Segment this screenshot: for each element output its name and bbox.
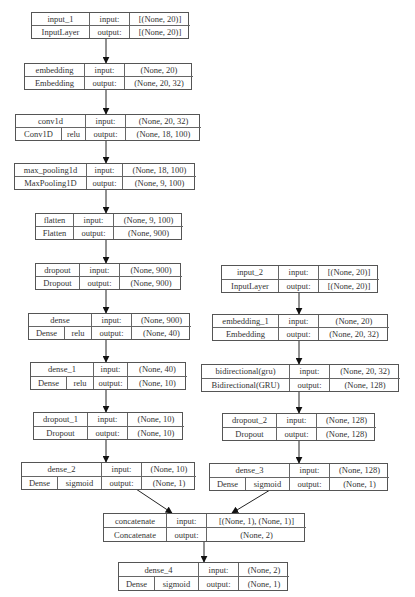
node-dense: dense input: (None, 900) Dense relu outp…	[28, 313, 190, 340]
node-name: input_1	[32, 13, 90, 26]
node-type: Dropout	[223, 428, 277, 441]
output-label: output:	[279, 280, 319, 293]
node-dense_3: dense_3 input: (None, 128) Dense sigmoid…	[209, 463, 388, 491]
output-label: output:	[199, 577, 239, 590]
output-shape: (None, 40)	[132, 327, 191, 339]
node-concatenate: concatenate input: [(None, 1), (None, 1)…	[103, 513, 305, 542]
output-label: output:	[290, 379, 330, 392]
input-shape: (None, 20, 32)	[126, 115, 201, 128]
output-label: output:	[94, 377, 128, 390]
node-type: Dropout	[34, 427, 88, 440]
input-label: input:	[80, 264, 120, 277]
input-label: input:	[88, 413, 128, 427]
output-shape: (None, 900)	[114, 227, 183, 239]
node-conv1d: conv1d input: (None, 20, 32) Conv1D relu…	[15, 114, 200, 141]
output-label: output:	[90, 26, 130, 38]
input-shape: (None, 128)	[317, 414, 376, 428]
input-shape: (None, 900)	[120, 264, 182, 277]
input-label: input:	[94, 363, 128, 377]
node-type: Flatten	[36, 227, 74, 239]
input-shape: (None, 18, 100)	[123, 164, 196, 177]
node-name: dropout_1	[34, 413, 88, 427]
edge-dense_2-concatenate	[136, 489, 172, 513]
node-type: Dense	[31, 377, 67, 390]
input-shape: (None, 40)	[128, 363, 187, 377]
activation: sigmoid	[246, 478, 290, 491]
node-input_1: input_1 input: [(None, 20)] InputLayer o…	[31, 12, 189, 39]
node-name: bidirectional(gru)	[202, 365, 290, 379]
output-label: output:	[167, 528, 207, 541]
node-name: dropout	[36, 264, 80, 277]
node-name: dense_4	[119, 563, 199, 577]
node-type: Conv1D	[16, 128, 62, 140]
input-label: input:	[199, 563, 239, 577]
input-shape: (None, 2)	[239, 563, 289, 577]
activation: sigmoid	[58, 477, 102, 490]
output-label: output:	[86, 128, 126, 140]
node-dense_4: dense_4 input: (None, 2) Dense sigmoid o…	[118, 562, 288, 591]
activation: relu	[62, 128, 86, 140]
node-type: Concatenate	[104, 528, 167, 541]
node-name: dense_3	[210, 464, 290, 478]
node-name: dropout_2	[223, 414, 277, 428]
output-label: output:	[88, 427, 128, 440]
output-label: output:	[102, 477, 142, 490]
output-label: output:	[290, 478, 330, 491]
node-name: flatten	[36, 214, 74, 227]
output-shape: (None, 20, 32)	[319, 328, 389, 340]
output-label: output:	[92, 327, 132, 339]
activation: sigmoid	[155, 577, 199, 590]
input-label: input:	[167, 514, 207, 528]
output-shape: [(None, 20)]	[319, 280, 379, 293]
output-shape: (None, 2)	[207, 528, 306, 541]
output-label: output:	[80, 277, 120, 289]
node-type: Dense	[210, 478, 246, 491]
input-label: input:	[290, 464, 330, 478]
input-shape: (None, 20)	[319, 315, 389, 328]
output-label: output:	[74, 227, 114, 239]
input-label: input:	[85, 64, 125, 77]
input-shape: (None, 20)	[125, 64, 193, 77]
node-dropout_1: dropout_1 input: (None, 10) Dropout outp…	[33, 412, 183, 440]
node-name: dense	[29, 314, 92, 327]
input-shape: (None, 9, 100)	[114, 214, 183, 227]
node-flatten: flatten input: (None, 9, 100) Flatten ou…	[35, 213, 182, 240]
activation: relu	[67, 377, 94, 390]
node-type: Dense	[29, 327, 65, 339]
input-shape: [(None, 20)]	[319, 266, 379, 280]
input-label: input:	[92, 314, 132, 327]
node-max_pooling1d: max_pooling1d input: (None, 18, 100) Max…	[14, 163, 195, 190]
input-label: input:	[290, 365, 330, 379]
node-name: input_2	[222, 266, 279, 280]
input-label: input:	[74, 214, 114, 227]
output-shape: (None, 1)	[239, 577, 289, 590]
input-label: input:	[102, 463, 142, 477]
input-shape: (None, 900)	[132, 314, 191, 327]
input-label: input:	[86, 115, 126, 128]
input-label: input:	[279, 266, 319, 280]
output-label: output:	[279, 328, 319, 340]
output-shape: (None, 10)	[128, 377, 187, 390]
input-shape: (None, 128)	[330, 464, 389, 478]
node-type: InputLayer	[222, 280, 279, 293]
input-shape: (None, 10)	[128, 413, 184, 427]
output-shape: (None, 128)	[330, 379, 400, 392]
node-dropout_2: dropout_2 input: (None, 128) Dropout out…	[222, 413, 375, 441]
node-input_2: input_2 input: [(None, 20)] InputLayer o…	[221, 265, 378, 293]
output-shape: (None, 1)	[330, 478, 389, 491]
node-embedding: embedding input: (None, 20) Embedding ou…	[24, 63, 192, 90]
output-label: output:	[87, 177, 123, 189]
node-type: Dense	[22, 477, 58, 490]
node-dense_1: dense_1 input: (None, 40) Dense relu out…	[30, 362, 186, 390]
node-name: dense_2	[22, 463, 102, 477]
edge-dense_3-concatenate	[232, 490, 270, 513]
node-name: concatenate	[104, 514, 167, 528]
input-shape: (None, 10)	[142, 463, 196, 477]
node-type: Dropout	[36, 277, 80, 289]
input-label: input:	[279, 315, 319, 328]
input-label: input:	[90, 13, 130, 26]
output-shape: (None, 20, 32)	[125, 77, 193, 89]
node-name: max_pooling1d	[15, 164, 87, 177]
node-embedding_1: embedding_1 input: (None, 20) Embedding …	[212, 314, 388, 341]
node-type: Dense	[119, 577, 155, 590]
